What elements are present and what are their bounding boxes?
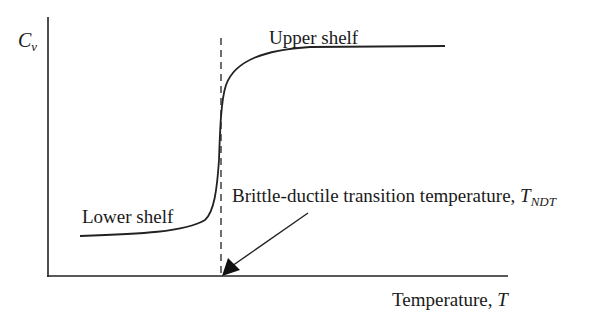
transition-label: Brittle-ductile transition temperature, … [232, 186, 556, 208]
upper-shelf-label: Upper shelf [269, 28, 358, 47]
transition-symbol: T [520, 185, 531, 206]
x-axis-symbol: T [497, 289, 508, 310]
arrow-shaft [232, 213, 308, 266]
y-axis-label: Cv [18, 30, 37, 53]
transition-subscript: NDT [531, 194, 556, 209]
transition-text: Brittle-ductile transition temperature, [232, 185, 520, 206]
x-axis-label: Temperature, T [392, 290, 508, 309]
arrow-head [222, 258, 240, 276]
lower-shelf-label: Lower shelf [82, 207, 173, 226]
y-axis-symbol: C [18, 29, 31, 51]
y-axis-subscript: v [31, 39, 37, 54]
x-axis-label-text: Temperature, [392, 289, 497, 310]
